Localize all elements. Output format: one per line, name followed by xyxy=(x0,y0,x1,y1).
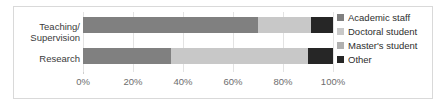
bar-segment xyxy=(311,17,334,33)
stacked-bar-chart-figure: Teaching/ Supervision Research 0%20%40%6… xyxy=(0,0,447,106)
legend-swatch-icon xyxy=(337,14,344,21)
category-label-line: Supervision xyxy=(2,32,80,43)
category-label-line: Teaching/ xyxy=(2,21,80,32)
bar-row xyxy=(83,17,333,33)
chart-legend: Academic staffDoctoral studentMaster's s… xyxy=(337,11,437,67)
legend-item-label: Doctoral student xyxy=(348,26,417,37)
legend-swatch-icon xyxy=(337,42,344,49)
legend-swatch-icon xyxy=(337,56,344,63)
bar-row xyxy=(83,48,333,64)
legend-item[interactable]: Doctoral student xyxy=(337,25,437,38)
value-axis-tick-label: 60% xyxy=(213,76,253,87)
legend-item[interactable]: Other xyxy=(337,53,437,66)
legend-item-label: Academic staff xyxy=(348,12,410,23)
category-label-line: Research xyxy=(2,53,80,64)
value-axis-tick-label: 0% xyxy=(63,76,103,87)
legend-item-label: Master's student xyxy=(348,40,417,51)
value-axis-tick-labels: 0%20%40%60%80%100% xyxy=(83,76,333,90)
category-label-research: Research xyxy=(2,53,80,64)
bar-segment xyxy=(83,17,258,33)
category-label-teaching-supervision: Teaching/ Supervision xyxy=(2,21,80,43)
legend-item[interactable]: Master's student xyxy=(337,39,437,52)
plot-area xyxy=(83,12,333,72)
bar-segment xyxy=(308,48,333,64)
bar-segment xyxy=(258,17,311,33)
category-axis-labels: Teaching/ Supervision Research xyxy=(0,12,80,72)
legend-item-label: Other xyxy=(348,54,372,65)
value-axis-tick-label: 100% xyxy=(313,76,353,87)
legend-item[interactable]: Academic staff xyxy=(337,11,437,24)
bar-segment xyxy=(83,48,171,64)
gridline xyxy=(333,12,334,72)
legend-swatch-icon xyxy=(337,28,344,35)
value-axis-tick-label: 20% xyxy=(113,76,153,87)
value-axis-tick-label: 80% xyxy=(263,76,303,87)
bar-segment xyxy=(171,48,309,64)
value-axis-tick-label: 40% xyxy=(163,76,203,87)
